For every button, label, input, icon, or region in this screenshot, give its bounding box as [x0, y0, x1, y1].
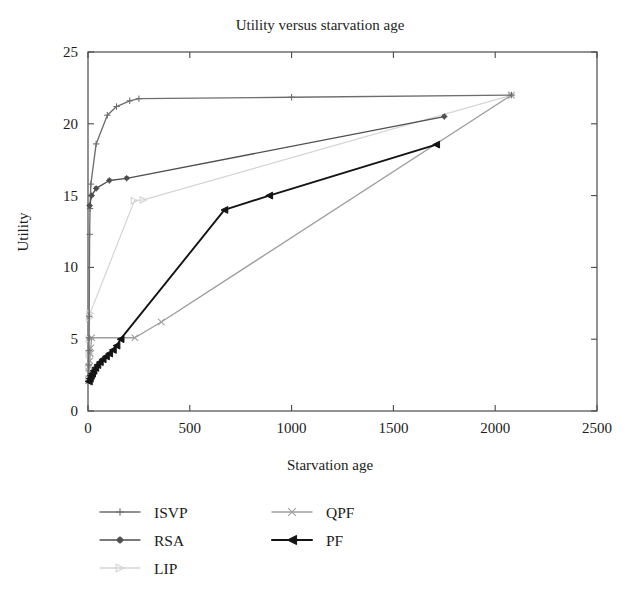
series-line-qpf: [89, 95, 512, 381]
marker-triangle-left: [266, 192, 273, 199]
marker-triangle-left: [287, 535, 296, 544]
y-axis-ticks: 0510152025: [63, 44, 597, 419]
x-axis-ticks: 05001000150020002500: [84, 52, 612, 436]
series-isvp: [85, 92, 514, 384]
legend-label-pf: PF: [326, 532, 344, 549]
series-pf: [85, 141, 439, 385]
legend-item-isvp[interactable]: ISVP: [100, 504, 188, 521]
marker-star: [86, 202, 92, 208]
legend-item-pf[interactable]: PF: [272, 532, 344, 549]
utility-vs-starvation-age-chart: Utility versus starvation age Utility St…: [0, 0, 643, 596]
series-line-lip: [89, 95, 512, 379]
plot-frame: [88, 52, 597, 411]
x-tick-label: 2500: [582, 420, 612, 436]
x-axis-label: Starvation age: [287, 457, 374, 473]
marker-x: [158, 319, 164, 325]
marker-star: [93, 185, 99, 191]
marker-plus: [86, 231, 92, 237]
marker-plus: [116, 508, 124, 516]
legend-label-qpf: QPF: [326, 504, 355, 521]
y-tick-label: 5: [71, 331, 79, 347]
marker-triangle-left: [433, 141, 440, 148]
marker-plus: [88, 181, 94, 187]
marker-plus: [93, 141, 99, 147]
legend-item-lip[interactable]: LIP: [100, 560, 177, 577]
series-layer: [85, 92, 514, 385]
chart-legend: ISVPRSALIPQPFPF: [100, 504, 355, 577]
marker-star: [106, 177, 112, 183]
marker-star: [123, 175, 129, 181]
legend-label-rsa: RSA: [154, 532, 185, 549]
marker-plus: [127, 98, 133, 104]
y-tick-label: 25: [63, 44, 78, 60]
series-line-isvp: [88, 95, 511, 381]
legend-label-isvp: ISVP: [154, 504, 188, 521]
y-tick-label: 20: [63, 116, 78, 132]
chart-figure: Utility versus starvation age Utility St…: [0, 0, 643, 596]
x-tick-label: 2000: [480, 420, 510, 436]
marker-plus: [288, 94, 294, 100]
x-tick-label: 1000: [277, 420, 307, 436]
y-tick-label: 0: [71, 403, 79, 419]
x-tick-label: 500: [179, 420, 202, 436]
legend-label-lip: LIP: [154, 560, 177, 577]
legend-item-qpf[interactable]: QPF: [272, 504, 355, 521]
y-tick-label: 10: [63, 259, 78, 275]
y-axis-label: Utility: [15, 212, 31, 252]
series-line-pf: [89, 145, 436, 382]
marker-star: [88, 192, 94, 198]
marker-star: [116, 536, 124, 544]
chart-title: Utility versus starvation age: [236, 17, 405, 33]
series-qpf: [85, 92, 514, 384]
x-tick-label: 1500: [378, 420, 408, 436]
y-tick-label: 15: [63, 188, 78, 204]
legend-item-rsa[interactable]: RSA: [100, 532, 185, 549]
marker-plus: [136, 95, 142, 101]
x-tick-label: 0: [84, 420, 92, 436]
